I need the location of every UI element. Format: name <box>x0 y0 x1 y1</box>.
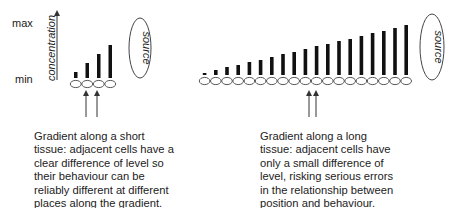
short-gradient-cells <box>70 80 115 87</box>
long-gradient-cell <box>356 77 367 84</box>
short-gradient-caption: Gradient along a short tissue: adjacent … <box>34 130 174 208</box>
long-source: source <box>420 14 445 80</box>
short-gradient-bar <box>86 63 90 78</box>
long-gradient-bar <box>203 73 207 75</box>
long-gradient-bar <box>292 52 296 75</box>
short-gradient-cell <box>70 80 81 87</box>
long-gradient-cell <box>278 77 289 84</box>
long-gradient-bar <box>248 62 252 75</box>
long-gradient-bar <box>393 28 397 75</box>
long-gradient-bar <box>236 65 240 75</box>
long-gradient-bars <box>203 25 408 75</box>
long-gradient-bar <box>348 39 352 75</box>
long-gradient-cell <box>199 77 210 84</box>
long-gradient-bar <box>281 54 285 75</box>
long-gradient-cell <box>255 77 266 84</box>
long-gradient-bar <box>326 44 330 75</box>
long-gradient-bar <box>225 67 229 75</box>
long-gradient-cell <box>311 77 322 84</box>
long-gradient-cell <box>390 77 401 84</box>
long-source-label: source <box>433 30 445 63</box>
long-gradient-cell <box>345 77 356 84</box>
long-gradient-cell <box>334 77 345 84</box>
long-gradient-cell <box>211 77 222 84</box>
long-gradient-cell <box>401 77 412 84</box>
long-gradient-bar <box>337 41 341 75</box>
short-gradient-bar <box>74 72 78 78</box>
long-gradient-caption: Gradient along a long tissue: adjacent c… <box>260 130 393 208</box>
short-gradient-cell <box>105 80 116 87</box>
short-gradient-bar <box>97 54 101 78</box>
long-gradient-cell <box>233 77 244 84</box>
long-gradient-bar <box>304 49 308 75</box>
long-gradient-cell <box>323 77 334 84</box>
long-gradient-cell <box>222 77 233 84</box>
long-gradient-bar <box>360 36 364 75</box>
long-gradient-bar <box>214 70 218 75</box>
long-gradient-cell <box>379 77 390 84</box>
long-gradient-cell <box>300 77 311 84</box>
long-gradient-bar <box>382 31 386 75</box>
short-gradient-bar <box>109 45 113 78</box>
long-gradient-cells <box>199 77 411 84</box>
long-gradient-bar <box>315 46 319 75</box>
short-source-label: source <box>141 31 153 64</box>
long-gradient-cell <box>267 77 278 84</box>
long-gradient-cell <box>289 77 300 84</box>
short-gradient-cell <box>93 80 104 87</box>
long-gradient-bar <box>270 57 274 75</box>
long-gradient-bar <box>371 33 375 75</box>
short-gradient-cell <box>82 80 93 87</box>
short-source: source <box>129 18 153 78</box>
long-gradient-bar <box>404 25 408 75</box>
long-gradient-cell <box>367 77 378 84</box>
long-gradient-cell <box>244 77 255 84</box>
short-gradient-bars <box>74 45 112 78</box>
long-gradient-bar <box>259 60 263 75</box>
